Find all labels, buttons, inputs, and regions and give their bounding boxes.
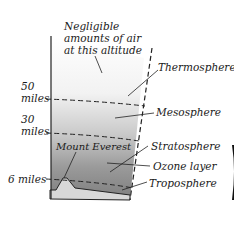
label-ozone-layer: Ozone layer — [153, 160, 217, 172]
label-50-miles: 50 miles — [21, 80, 49, 104]
label-mount-everest: Mount Everest — [56, 141, 131, 153]
label-thermosphere: Thermosphere — [158, 61, 234, 73]
label-6-miles: 6 miles — [8, 173, 46, 185]
label-stratosphere: Stratosphere — [151, 140, 221, 152]
note-negligible-air: Negligible amounts of air at this altitu… — [64, 20, 142, 56]
label-30-miles: 30 miles — [21, 113, 49, 137]
label-mesosphere: Mesosphere — [156, 106, 221, 118]
page-edge — [232, 145, 234, 200]
label-troposphere: Troposphere — [149, 177, 217, 189]
